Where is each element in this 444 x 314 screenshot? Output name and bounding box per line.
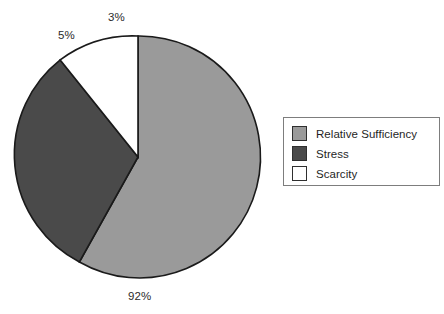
legend-swatch-icon	[292, 166, 307, 181]
slice-label-relative-sufficiency: 92%	[128, 290, 151, 302]
legend-label: Relative Sufficiency	[316, 128, 417, 140]
slice-label-scarcity: 3%	[108, 11, 125, 23]
legend-swatch-icon	[292, 146, 307, 161]
legend-item-scarcity[interactable]: Scarcity	[292, 164, 439, 183]
chart-legend: Relative Sufficiency Stress Scarcity	[283, 117, 440, 186]
slice-label-stress: 5%	[58, 29, 75, 41]
pie-chart-figure: 3% 5% 92% Relative Sufficiency Stress Sc…	[0, 0, 444, 314]
legend-label: Scarcity	[316, 168, 357, 180]
legend-item-relative-sufficiency[interactable]: Relative Sufficiency	[292, 124, 439, 143]
legend-swatch-icon	[292, 126, 307, 141]
legend-item-stress[interactable]: Stress	[292, 144, 439, 163]
legend-label: Stress	[316, 148, 349, 160]
